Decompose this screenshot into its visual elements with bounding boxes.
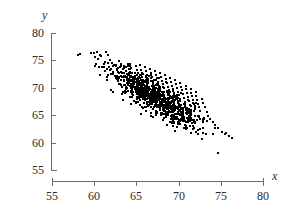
scatter-point: [217, 152, 219, 154]
scatter-point: [184, 124, 186, 126]
scatter-point: [168, 101, 170, 103]
scatter-point: [189, 110, 191, 112]
scatter-point: [150, 112, 152, 114]
scatter-point: [109, 59, 111, 61]
scatter-point: [143, 89, 145, 91]
scatter-point: [173, 92, 175, 94]
scatter-point: [187, 121, 189, 123]
scatter-point: [153, 106, 155, 108]
scatter-point: [192, 128, 194, 130]
scatter-point: [196, 119, 198, 121]
scatter-point: [121, 93, 123, 95]
scatter-point: [132, 86, 134, 88]
scatter-point: [153, 87, 155, 89]
scatter-point: [145, 110, 147, 112]
scatter-point: [155, 102, 157, 104]
scatter-point: [174, 96, 176, 98]
scatter-point: [150, 106, 152, 108]
scatter-point: [112, 71, 114, 73]
scatter-point: [181, 89, 183, 91]
scatter-point: [126, 87, 128, 89]
scatter-point: [147, 82, 149, 84]
scatter-point: [178, 94, 180, 96]
scatter-point: [106, 79, 108, 81]
scatter-point: [127, 90, 129, 92]
scatter-point: [174, 130, 176, 132]
scatter-point: [101, 66, 103, 68]
scatter-point: [194, 107, 196, 109]
scatter-point: [165, 115, 167, 117]
scatter-point: [158, 85, 160, 87]
scatter-point: [170, 81, 172, 83]
scatter-point: [228, 135, 230, 137]
scatter-point: [149, 68, 151, 70]
scatter-point: [152, 80, 154, 82]
scatter-point: [132, 77, 134, 79]
scatter-point: [209, 118, 211, 120]
scatter-point: [214, 127, 216, 129]
scatter-point: [121, 86, 123, 88]
scatter-point: [148, 75, 150, 77]
scatter-point: [145, 86, 147, 88]
scatter-point: [168, 98, 170, 100]
scatter-point: [144, 66, 146, 68]
scatter-point: [96, 51, 98, 53]
scatter-point: [217, 127, 219, 129]
scatter-point: [198, 106, 200, 108]
scatter-point: [179, 100, 181, 102]
scatter-point: [123, 84, 125, 86]
scatter-point: [201, 138, 203, 140]
scatter-point: [94, 56, 96, 58]
scatter-point: [159, 104, 161, 106]
scatter-point: [197, 133, 199, 135]
scatter-point: [179, 114, 181, 116]
scatter-point: [190, 92, 192, 94]
scatter-point: [170, 106, 172, 108]
scatter-point: [173, 121, 175, 123]
scatter-point: [118, 76, 120, 78]
scatter-point: [117, 80, 119, 82]
scatter-point: [185, 85, 187, 87]
scatter-point: [171, 100, 173, 102]
scatter-point: [202, 121, 204, 123]
scatter-point: [152, 92, 154, 94]
scatter-point: [125, 70, 127, 72]
scatter-point: [106, 68, 108, 70]
scatter-point: [163, 117, 165, 119]
scatter-point: [206, 120, 208, 122]
scatter-point: [173, 101, 175, 103]
scatter-point: [147, 78, 149, 80]
scatter-point: [145, 70, 147, 72]
scatter-point: [165, 78, 167, 80]
scatter-point: [107, 62, 109, 64]
scatter-point: [129, 63, 131, 65]
scatter-point: [193, 121, 195, 123]
scatter-point: [199, 118, 201, 120]
scatter-point: [192, 99, 194, 101]
scatter-point: [154, 70, 156, 72]
scatter-point: [172, 88, 174, 90]
scatter-point: [204, 106, 206, 108]
scatter-point: [157, 99, 159, 101]
scatter-point: [174, 79, 176, 81]
scatter-point: [205, 133, 207, 135]
scatter-point: [197, 129, 199, 131]
scatter-point: [143, 96, 145, 98]
scatter-point: [190, 132, 192, 134]
scatter-point: [188, 115, 190, 117]
scatter-point: [160, 112, 162, 114]
scatter-point: [162, 119, 164, 121]
scatter-plot-figure: 556065707580556065707580 y x: [0, 0, 291, 222]
scatter-point: [177, 91, 179, 93]
scatter-point: [135, 101, 137, 103]
scatter-point: [137, 101, 139, 103]
scatter-point: [146, 98, 148, 100]
scatter-point: [156, 77, 158, 79]
scatter-point: [163, 91, 165, 93]
scatter-point: [141, 72, 143, 74]
scatter-point: [98, 66, 100, 68]
scatter-point: [174, 116, 176, 118]
scatter-point: [136, 98, 138, 100]
scatter-point: [191, 95, 193, 97]
scatter-point: [130, 103, 132, 105]
